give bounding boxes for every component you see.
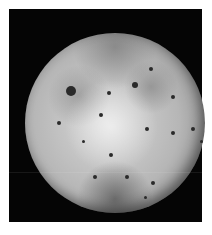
crater-spot [107,91,111,95]
crater-spot [93,175,97,179]
crater-spot [144,196,147,199]
scan-seam [0,172,212,173]
image-frame [9,9,202,222]
crater-spot [66,86,76,96]
crater-spot [200,140,203,143]
crater-spot [145,127,149,131]
crater-spot [171,95,175,99]
crater-spot [57,121,61,125]
crater-spot [109,153,113,157]
crater-spot [191,127,195,131]
crater-spot [171,131,175,135]
crater-spot [82,140,85,143]
crater-spot [132,82,138,88]
crater-spot [125,175,129,179]
moon-sphere [25,33,205,213]
crater-spot [99,113,103,117]
crater-spot [149,67,153,71]
crater-spot [151,181,155,185]
